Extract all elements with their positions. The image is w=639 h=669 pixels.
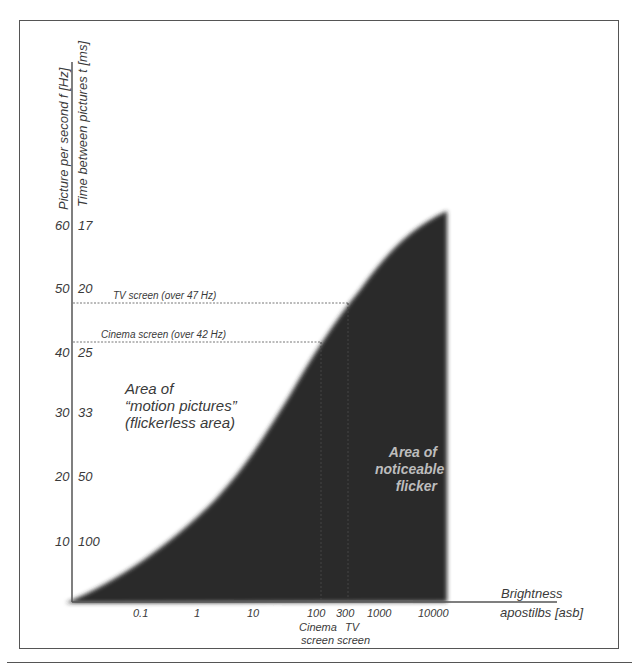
flicker-line-1: Area of	[375, 444, 437, 461]
cinema-line-label: Cinema screen (over 42 Hz)	[101, 329, 226, 340]
flicker-line-3: flicker	[375, 478, 437, 495]
cinema-sublabel-2: screen	[301, 634, 334, 646]
y-tick-hz: 10	[55, 534, 69, 549]
y-axis-label-hz: Picture per second f [Hz]	[56, 68, 71, 210]
y-tick-ms: 20	[78, 281, 92, 296]
x-axis-label-brightness: Brightness	[501, 586, 562, 601]
x-axis-label-unit: apostilbs [asb]	[500, 605, 583, 620]
tv-line-label: TV screen (over 47 Hz)	[113, 290, 216, 301]
x-tick: 300	[336, 607, 354, 619]
y-tick-hz: 40	[55, 345, 69, 360]
x-tick: 0.1	[133, 607, 148, 619]
y-tick-hz: 30	[55, 405, 69, 420]
motion-line-3: (flickerless area)	[125, 414, 237, 431]
y-tick-ms: 100	[78, 534, 100, 549]
flicker-area	[66, 211, 447, 603]
flicker-area-label: Area of noticeable flicker	[375, 444, 437, 495]
y-axis-label-ms: Time between pictures t [ms]	[75, 41, 90, 207]
y-tick-ms: 25	[78, 345, 92, 360]
y-tick-ms: 17	[78, 218, 92, 233]
motion-line-2: “motion pictures”	[125, 397, 237, 414]
y-tick-hz: 50	[55, 281, 69, 296]
x-tick: 10000	[418, 607, 449, 619]
x-tick: 10	[247, 607, 259, 619]
cinema-sublabel-1: Cinema	[299, 621, 337, 633]
x-tick: 1000	[367, 607, 391, 619]
y-tick-hz: 60	[55, 218, 69, 233]
y-tick-ms: 50	[78, 469, 92, 484]
y-tick-hz: 20	[55, 469, 69, 484]
x-tick: 1	[194, 607, 200, 619]
flicker-line-2: noticeable	[375, 461, 437, 478]
motion-line-1: Area of	[125, 380, 237, 397]
tv-sublabel-1: TV	[345, 621, 359, 633]
tv-sublabel-2: screen	[337, 634, 370, 646]
y-tick-ms: 33	[78, 405, 92, 420]
motion-area-label: Area of “motion pictures” (flickerless a…	[125, 380, 237, 431]
chart-plot	[0, 0, 639, 669]
x-tick: 100	[307, 607, 325, 619]
